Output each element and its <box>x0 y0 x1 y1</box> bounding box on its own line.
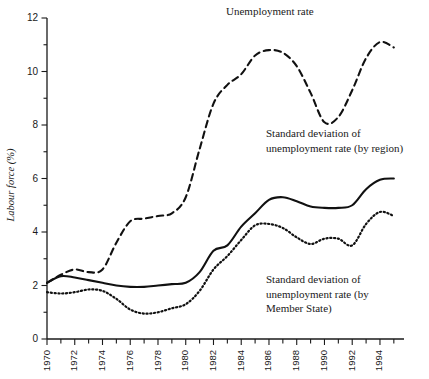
y-tick-label: 8 <box>32 119 38 130</box>
x-axis: 1970197219741976197819801982198419861988… <box>41 339 404 371</box>
chart-canvas: 024681012 197019721974197619781980198219… <box>0 0 429 379</box>
x-tick-label: 1982 <box>207 350 218 371</box>
y-axis: 024681012 <box>27 12 47 344</box>
x-tick-label: 1986 <box>262 350 273 371</box>
series-line-unemployment-rate <box>47 42 394 283</box>
y-tick-label: 2 <box>32 280 38 291</box>
y-axis-title: Labour force (%) <box>5 148 17 223</box>
x-tick-label: 1984 <box>235 350 246 371</box>
x-tick-label: 1978 <box>152 350 163 371</box>
x-tick-label: 1994 <box>373 350 384 371</box>
x-tick-label: 1970 <box>41 350 52 371</box>
x-tick-label: 1988 <box>290 350 301 371</box>
y-tick-label: 4 <box>32 226 38 237</box>
y-tick-label: 0 <box>32 333 38 344</box>
x-tick-label: 1974 <box>96 350 107 371</box>
x-tick-label: 1976 <box>124 350 135 371</box>
unemployment-chart: 024681012 197019721974197619781980198219… <box>0 0 429 379</box>
x-tick-label: 1992 <box>346 350 357 371</box>
x-tick-label: 1972 <box>68 350 79 371</box>
y-tick-label: 6 <box>32 173 38 184</box>
series-line-sd-by-region <box>47 179 394 288</box>
y-tick-label: 10 <box>27 66 39 77</box>
x-tick-label: 1990 <box>318 350 329 371</box>
annotation-unemployment-rate: Unemployment rate <box>226 4 314 19</box>
y-tick-label: 12 <box>27 12 39 23</box>
x-tick-label: 1980 <box>179 350 190 371</box>
annotation-sd-by-member-state: Standard deviation of unemployment rate … <box>266 272 369 316</box>
annotation-sd-by-region: Standard deviation of unemployment rate … <box>266 126 403 155</box>
